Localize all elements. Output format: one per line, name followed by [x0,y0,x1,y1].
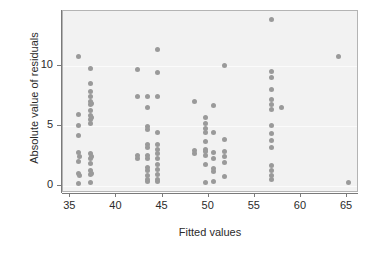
data-point [76,123,81,128]
data-point [336,54,341,59]
data-point [269,17,274,22]
data-point [135,156,140,161]
x-tick-label: 60 [280,199,320,211]
data-point [88,161,93,166]
data-point [192,99,197,104]
data-point [145,127,150,132]
data-point [145,94,150,99]
data-point [155,70,160,75]
data-point [89,115,94,120]
y-tick-mark [57,65,61,66]
data-point [88,66,93,71]
x-tick-label: 55 [234,199,274,211]
data-point [269,75,274,80]
data-point [88,81,93,86]
data-point [145,179,150,184]
data-point [76,54,81,59]
data-point [222,174,227,179]
data-point [203,180,208,185]
gridline-horizontal [63,66,357,67]
x-tick-label: 50 [188,199,228,211]
data-point [269,177,274,182]
data-point [135,67,140,72]
data-point [203,139,208,144]
data-point [88,180,93,185]
x-tick-mark [69,193,70,197]
plot-panel [62,10,358,192]
x-axis-label: Fitted values [62,226,358,238]
x-tick-mark [254,193,255,197]
gridline-horizontal [63,126,357,127]
y-axis-label: Absolute value of residuals [28,7,40,189]
y-tick-mark [57,185,61,186]
data-point [203,162,208,167]
data-point [155,130,160,135]
data-point [211,130,216,135]
data-point [269,87,274,92]
data-point [269,138,274,143]
data-point [155,47,160,52]
gridline-horizontal [63,186,357,187]
data-point [269,123,274,128]
data-point [346,180,351,185]
data-point [76,159,81,164]
y-tick-mark [57,125,61,126]
data-point [269,131,274,136]
x-tick-label: 35 [49,199,89,211]
data-point [89,101,94,106]
data-point [89,171,94,176]
data-point [222,137,227,142]
data-point [155,179,160,184]
data-point [77,154,82,159]
data-point [145,156,150,161]
data-point [222,63,227,68]
data-point [76,112,81,117]
data-point [211,179,216,184]
x-tick-label: 45 [142,199,182,211]
data-point [211,169,216,174]
scatter-plot-figure: 35404550556065 0510 Fitted values Absolu… [0,0,379,253]
x-tick-mark [208,193,209,197]
y-axis-line [61,10,62,193]
data-point [145,145,150,150]
data-point [211,156,216,161]
data-point [222,160,227,165]
data-point [76,133,81,138]
data-point [211,103,216,108]
data-point [269,145,274,150]
data-point [155,156,160,161]
x-tick-mark [346,193,347,197]
data-point [135,94,140,99]
data-point [269,107,274,112]
data-point [89,154,94,159]
data-point [203,115,208,120]
x-tick-label: 40 [95,199,135,211]
x-tick-mark [162,193,163,197]
data-point [203,153,208,158]
data-point [145,105,150,110]
x-tick-mark [300,193,301,197]
x-tick-mark [115,193,116,197]
data-point [192,151,197,156]
data-point [77,173,82,178]
data-point [269,69,274,74]
data-point [211,150,216,155]
x-axis-line [62,193,358,194]
data-point [155,94,160,99]
x-tick-label: 65 [326,199,366,211]
data-point [203,130,208,135]
data-point [279,105,284,110]
data-point [222,154,227,159]
